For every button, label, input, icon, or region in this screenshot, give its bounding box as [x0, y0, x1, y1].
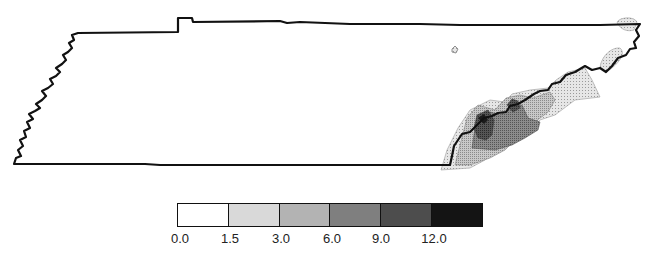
legend-label: 12.0 [421, 231, 446, 246]
legend-label: 3.0 [272, 231, 290, 246]
legend-swatch-4 [381, 204, 432, 226]
legend-swatch-0 [178, 204, 229, 226]
legend-label: 0.0 [171, 231, 189, 246]
legend-label: 1.5 [221, 231, 239, 246]
contour-zones [441, 18, 637, 170]
zone-isolated-patch [452, 46, 458, 53]
legend-labels: 0.0 1.5 3.0 6.0 9.0 12.0 [0, 231, 653, 247]
legend-swatch-3 [330, 204, 381, 226]
legend-swatch-2 [280, 204, 331, 226]
legend-swatch-1 [229, 204, 280, 226]
state-map [0, 0, 653, 200]
legend-label: 9.0 [372, 231, 390, 246]
color-legend [177, 203, 483, 227]
legend-swatch-5 [432, 204, 482, 226]
legend-label: 6.0 [323, 231, 341, 246]
